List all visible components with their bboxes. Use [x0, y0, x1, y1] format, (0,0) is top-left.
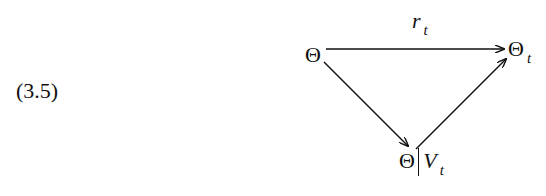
- node-symbol: Θ: [305, 42, 321, 67]
- node-subscript: t: [527, 50, 531, 66]
- arrow-label-r: rt: [412, 8, 428, 34]
- node-theta-given-v: ΘVt: [399, 148, 444, 176]
- node-symbol: Θ: [399, 148, 415, 173]
- node-var: V: [423, 148, 436, 173]
- label-subscript: t: [424, 22, 428, 38]
- arrow-right-up: [416, 59, 506, 149]
- node-theta-left: Θ: [305, 44, 321, 66]
- arrow-left-down: [324, 62, 408, 146]
- node-symbol: Θ: [508, 36, 524, 61]
- conditional-bar: [418, 148, 419, 176]
- label-var: r: [412, 8, 421, 33]
- commutative-diagram-arrows: [0, 0, 546, 196]
- node-subscript: t: [440, 162, 444, 178]
- node-theta-t: Θt: [508, 38, 531, 60]
